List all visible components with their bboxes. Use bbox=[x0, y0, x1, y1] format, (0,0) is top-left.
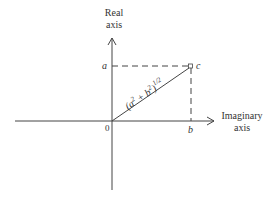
point-c-marker bbox=[189, 64, 193, 68]
real-axis-label-line2: axis bbox=[106, 19, 122, 30]
label-c: c bbox=[196, 60, 201, 71]
label-b: b bbox=[188, 124, 193, 135]
magnitude-label: (a2 + b2)1/2 bbox=[122, 76, 167, 113]
label-origin: 0 bbox=[105, 123, 110, 133]
label-a: a bbox=[102, 60, 107, 71]
complex-plane-diagram: Real axis Imaginary axis a c b 0 (a2 + b… bbox=[0, 0, 278, 202]
real-axis-label-line1: Real bbox=[105, 7, 124, 18]
svg-text:(a2 + b2)1/2: (a2 + b2)1/2 bbox=[122, 76, 167, 113]
imaginary-axis-label-line2: axis bbox=[234, 122, 250, 133]
imaginary-axis-label-line1: Imaginary bbox=[221, 110, 262, 121]
